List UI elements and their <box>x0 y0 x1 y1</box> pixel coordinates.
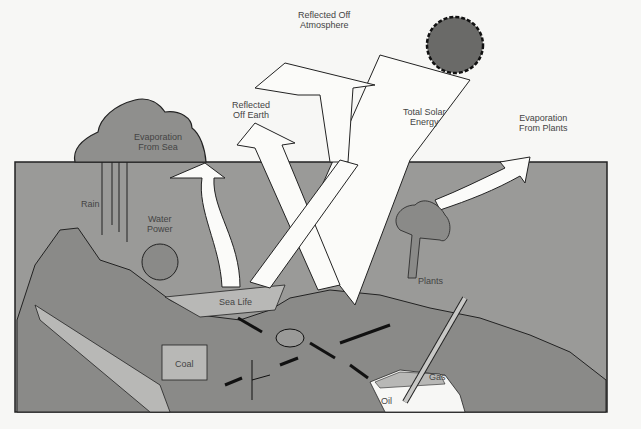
energy-diagram <box>0 0 641 429</box>
label-gas: Gas <box>429 372 446 382</box>
label-line: Off Earth <box>232 110 270 120</box>
leaf-fossil-icon <box>276 329 304 347</box>
label-evap-plants: EvaporationFrom Plants <box>519 113 568 133</box>
label-coal: Coal <box>175 359 194 369</box>
label-line: Reflected Off <box>298 10 350 20</box>
label-line: Atmosphere <box>298 20 350 30</box>
label-line: Evaporation <box>519 113 568 123</box>
label-plants: Plants <box>418 276 443 286</box>
label-line: Reflected <box>232 100 270 110</box>
label-rain: Rain <box>81 199 100 209</box>
label-reflected-atmosphere: Reflected OffAtmosphere <box>298 10 350 30</box>
cloud <box>75 99 206 162</box>
label-sea-life: Sea Life <box>219 297 252 307</box>
label-line: Total Solar <box>403 107 446 117</box>
label-reflected-earth: ReflectedOff Earth <box>232 100 270 120</box>
water-wheel-icon <box>142 244 178 280</box>
label-line: Power <box>147 224 173 234</box>
label-water-power: WaterPower <box>147 214 173 234</box>
label-line: Water <box>147 214 173 224</box>
label-line: Energy <box>403 117 446 127</box>
label-evap-sea: EvaporationFrom Sea <box>134 132 182 152</box>
sun-icon <box>427 17 483 73</box>
label-oil: Oil <box>381 396 392 406</box>
label-line: Evaporation <box>134 132 182 142</box>
label-line: From Plants <box>519 123 568 133</box>
label-line: From Sea <box>134 142 182 152</box>
label-total-solar: Total SolarEnergy <box>403 107 446 127</box>
